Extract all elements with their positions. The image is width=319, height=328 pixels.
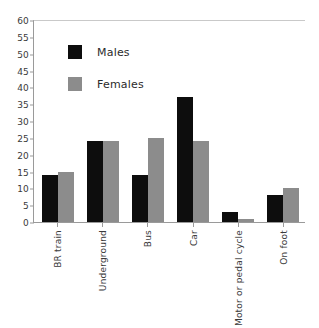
y-axis-tick-mark bbox=[30, 71, 34, 72]
x-axis-label-cell: BR train bbox=[34, 223, 79, 323]
x-axis-tick-label: BR train bbox=[53, 230, 63, 268]
y-axis-tick-mark bbox=[30, 172, 34, 173]
x-axis-label-cell: Car bbox=[170, 223, 215, 323]
bar-pair bbox=[170, 21, 215, 222]
bar-pair bbox=[215, 21, 260, 222]
y-axis-tick-mark bbox=[30, 138, 34, 139]
x-axis-tick-label: Underground bbox=[98, 230, 108, 291]
black-square-icon bbox=[68, 45, 82, 59]
x-axis-tick-mark bbox=[193, 223, 194, 227]
y-axis-tick-mark bbox=[30, 122, 34, 123]
bar-females bbox=[58, 172, 74, 223]
bar-males bbox=[42, 175, 58, 222]
bar-females bbox=[193, 141, 209, 222]
gray-square-icon bbox=[68, 77, 82, 91]
x-axis-tick-mark bbox=[57, 223, 58, 227]
y-axis-tick-mark bbox=[30, 206, 34, 207]
bar-group bbox=[215, 21, 260, 222]
y-axis-tick-mark bbox=[30, 105, 34, 106]
x-axis-label-cell: Motor or pedal cycle bbox=[215, 223, 260, 323]
bar-females bbox=[103, 141, 119, 222]
bar-males bbox=[87, 141, 103, 222]
y-axis-tick-mark bbox=[30, 155, 34, 156]
y-axis-tick-mark bbox=[30, 88, 34, 89]
bar-group bbox=[260, 21, 305, 222]
x-axis-tick-label: Bus bbox=[143, 230, 153, 247]
x-axis-tick-mark bbox=[102, 223, 103, 227]
bar-group bbox=[170, 21, 215, 222]
x-axis-tick-label: Motor or pedal cycle bbox=[234, 230, 244, 326]
legend: Males Females bbox=[68, 41, 144, 105]
bar-males bbox=[222, 212, 238, 222]
bar-pair bbox=[260, 21, 305, 222]
x-axis-label-cell: Underground bbox=[79, 223, 124, 323]
y-axis-tick-mark bbox=[30, 54, 34, 55]
bar-males bbox=[177, 97, 193, 222]
legend-label-males: Males bbox=[97, 46, 130, 59]
x-axis-tick-label: On foot bbox=[279, 230, 289, 265]
x-axis-tick-mark bbox=[283, 223, 284, 227]
x-axis-tick-mark bbox=[147, 223, 148, 227]
x-axis-tick-mark bbox=[238, 223, 239, 227]
bar-chart: 605550454035302520151050 BR trainUndergr… bbox=[0, 0, 319, 328]
y-axis-tick-mark bbox=[30, 189, 34, 190]
bar-females bbox=[283, 188, 299, 222]
legend-label-females: Females bbox=[97, 78, 144, 91]
bar-males bbox=[132, 175, 148, 222]
x-axis-tick-label: Car bbox=[189, 230, 199, 246]
x-axis-labels: BR trainUndergroundBusCarMotor or pedal … bbox=[34, 223, 306, 323]
y-axis-tick-mark bbox=[30, 37, 34, 38]
y-axis-tick-mark bbox=[30, 21, 34, 22]
legend-item-males: Males bbox=[68, 41, 144, 63]
bar-males bbox=[267, 195, 283, 222]
x-axis-label-cell: Bus bbox=[125, 223, 170, 323]
legend-item-females: Females bbox=[68, 73, 144, 95]
x-axis-label-cell: On foot bbox=[261, 223, 306, 323]
bar-females bbox=[148, 138, 164, 222]
